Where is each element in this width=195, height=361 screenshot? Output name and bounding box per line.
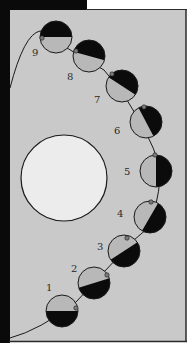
frame-left-band xyxy=(0,0,10,343)
phase-label: 9 xyxy=(32,47,38,58)
phase-label: 2 xyxy=(71,263,77,274)
diagram-canvas: 123456789 xyxy=(0,0,195,361)
phase-label: 6 xyxy=(114,125,120,136)
phase-label: 7 xyxy=(94,94,100,105)
central-body xyxy=(21,135,107,221)
position-marker-icon xyxy=(153,153,157,157)
moon-phase-diagram: 123456789 xyxy=(0,0,195,361)
position-marker-icon xyxy=(149,200,153,204)
position-marker-icon xyxy=(40,36,44,40)
phase-label: 1 xyxy=(46,282,52,293)
position-marker-icon xyxy=(125,236,129,240)
position-marker-icon xyxy=(105,273,109,277)
position-marker-icon xyxy=(142,105,146,109)
position-marker-icon xyxy=(74,306,78,310)
phase-label: 3 xyxy=(97,241,103,252)
position-marker-icon xyxy=(110,72,114,76)
phase-label: 5 xyxy=(124,166,130,177)
frame-top-band xyxy=(0,0,87,10)
phase-label: 4 xyxy=(117,208,123,219)
phase-label: 8 xyxy=(67,71,73,82)
position-marker-icon xyxy=(74,49,78,53)
